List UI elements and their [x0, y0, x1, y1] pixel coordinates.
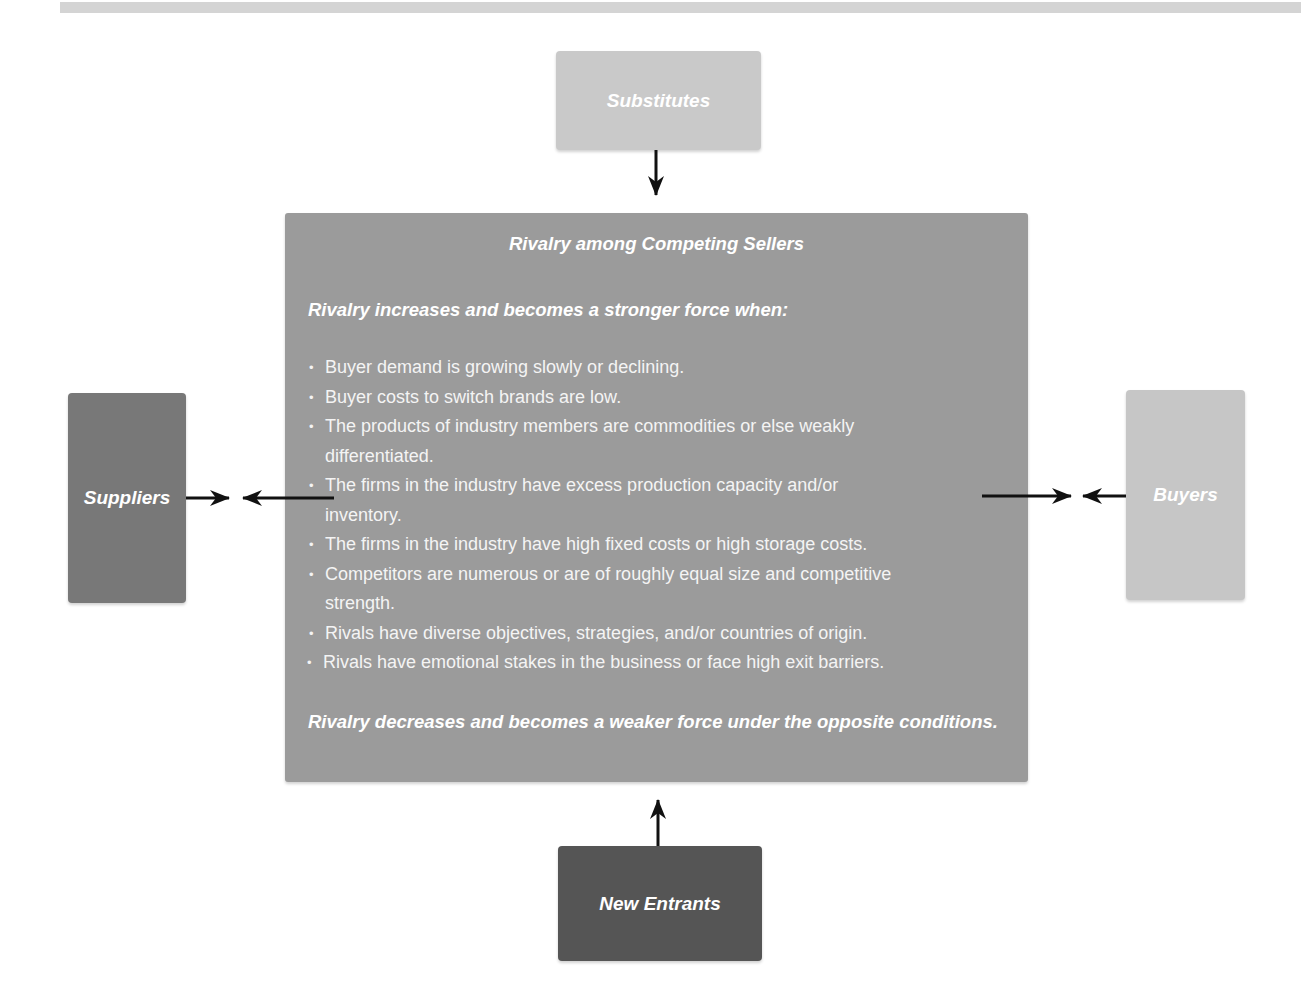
rivalry-intro: Rivalry increases and becomes a stronger…: [308, 299, 788, 321]
condition-item: The firms in the industry have excess pr…: [308, 471, 895, 530]
rivalry-conditions-list: Buyer demand is growing slowly or declin…: [308, 353, 1008, 678]
new-entrants-label: New Entrants: [599, 893, 720, 915]
condition-item: Buyer costs to switch brands are low.: [308, 383, 1008, 413]
rivalry-box: Rivalry among Competing Sellers Rivalry …: [285, 213, 1028, 782]
condition-item: Rivals have diverse objectives, strategi…: [308, 619, 1008, 649]
condition-item: The products of industry members are com…: [308, 412, 905, 471]
buyers-box: Buyers: [1126, 390, 1245, 600]
substitutes-box: Substitutes: [556, 51, 761, 150]
suppliers-label: Suppliers: [84, 487, 171, 509]
buyers-label: Buyers: [1153, 484, 1217, 506]
condition-item: Rivals have emotional stakes in the busi…: [306, 648, 1008, 678]
condition-item: The firms in the industry have high fixe…: [308, 530, 1008, 560]
top-strip: [60, 2, 1301, 13]
rivalry-outro: Rivalry decreases and becomes a weaker f…: [308, 707, 1008, 737]
rivalry-title: Rivalry among Competing Sellers: [285, 233, 1028, 255]
suppliers-box: Suppliers: [68, 393, 186, 603]
substitutes-label: Substitutes: [607, 90, 710, 112]
condition-item: Buyer demand is growing slowly or declin…: [308, 353, 1008, 383]
condition-item: Competitors are numerous or are of rough…: [308, 560, 915, 619]
new-entrants-box: New Entrants: [558, 846, 762, 961]
